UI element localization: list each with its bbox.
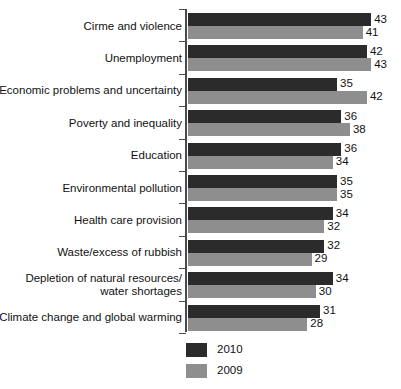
- legend-swatch-icon-2010: [186, 343, 207, 357]
- axis-tick: [179, 139, 186, 140]
- category-label: Environmental pollution: [0, 182, 182, 195]
- category-label: Education: [0, 149, 182, 162]
- bar-chart: Cirme and violence4341Unemployment4243Ec…: [0, 0, 401, 389]
- axis-tick: [179, 268, 186, 269]
- bar-value-label-2009: 35: [340, 188, 353, 201]
- bar-value-label-2010: 36: [344, 142, 357, 155]
- bar-value-label-2009: 28: [310, 317, 323, 330]
- legend-swatch-icon-2009: [186, 364, 207, 378]
- bar-2010: [188, 207, 333, 220]
- category-label: Economic problems and uncertainty: [0, 84, 182, 97]
- bar-2010: [188, 240, 324, 253]
- bar-2010: [188, 45, 367, 58]
- axis-tick: [179, 301, 186, 302]
- bar-2009: [188, 285, 316, 298]
- bar-value-label-2010: 34: [336, 272, 349, 285]
- bar-value-label-2010: 43: [374, 13, 387, 26]
- bar-value-label-2010: 36: [344, 110, 357, 123]
- category-label: Waste/excess of rubbish: [0, 246, 182, 259]
- bar-value-label-2010: 34: [336, 207, 349, 220]
- category-label: Unemployment: [0, 52, 182, 65]
- bar-2010: [188, 305, 320, 318]
- category-label: Cirme and violence: [0, 20, 182, 33]
- legend-item-2010: 2010: [186, 341, 386, 362]
- legend-item-2009: 2009: [186, 362, 386, 383]
- bar-2009: [188, 26, 363, 39]
- axis-tick: [179, 106, 186, 107]
- category-label: Health care provision: [0, 214, 182, 227]
- bar-value-label-2009: 42: [370, 90, 383, 103]
- axis-tick: [179, 236, 186, 237]
- plot-area: Cirme and violence4341Unemployment4243Ec…: [0, 0, 401, 340]
- bar-2010: [188, 175, 337, 188]
- bar-value-label-2010: 42: [370, 45, 383, 58]
- bar-2009: [188, 123, 350, 136]
- bar-2010: [188, 13, 371, 26]
- axis-tick: [179, 171, 186, 172]
- chart-legend: 2010 2009: [186, 341, 386, 383]
- category-label: Poverty and inequality: [0, 117, 182, 130]
- axis-tick: [179, 203, 186, 204]
- bar-value-label-2009: 43: [374, 58, 387, 71]
- bar-value-label-2010: 35: [340, 77, 353, 90]
- bar-2010: [188, 143, 341, 156]
- bar-2009: [188, 253, 312, 266]
- axis-tick: [179, 74, 186, 75]
- legend-label-2010: 2010: [217, 342, 243, 357]
- axis-tick: [179, 41, 186, 42]
- bar-value-label-2009: 34: [336, 155, 349, 168]
- bar-value-label-2009: 38: [353, 123, 366, 136]
- bar-value-label-2010: 35: [340, 175, 353, 188]
- bar-value-label-2009: 29: [315, 252, 328, 265]
- bar-2009: [188, 58, 371, 71]
- bar-2009: [188, 91, 367, 104]
- bar-value-label-2010: 31: [323, 304, 336, 317]
- bar-2009: [188, 220, 324, 233]
- bar-value-label-2009: 30: [319, 285, 332, 298]
- bar-value-label-2010: 32: [327, 239, 340, 252]
- legend-label-2009: 2009: [217, 363, 243, 378]
- bar-2010: [188, 272, 333, 285]
- bar-2010: [188, 78, 337, 91]
- bar-value-label-2009: 32: [327, 220, 340, 233]
- axis-tick: [179, 9, 186, 10]
- category-label: Climate change and global warming: [0, 311, 182, 324]
- bar-2010: [188, 110, 341, 123]
- bar-2009: [188, 188, 337, 201]
- bar-2009: [188, 318, 307, 331]
- bar-2009: [188, 156, 333, 169]
- bar-value-label-2009: 41: [366, 26, 379, 39]
- axis-tick: [179, 333, 186, 334]
- category-label: Depletion of natural resources/ water sh…: [0, 272, 182, 298]
